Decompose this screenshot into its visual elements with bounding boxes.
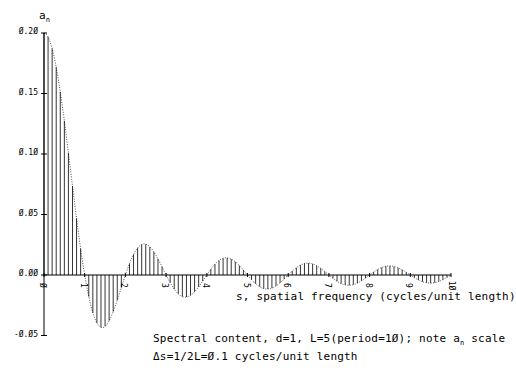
x-tick-label: Ø: [38, 283, 47, 288]
x-tick-label: 1: [79, 283, 88, 288]
y-tick-label: Ø.15: [19, 88, 38, 97]
x-tick-label: 6: [282, 283, 291, 288]
caption-line-1: Spectral content, d=1, L=5(period=1Ø); n…: [153, 332, 505, 347]
caption-line-2: Δs=1/2L=Ø.1 cycles/unit length: [153, 350, 358, 363]
x-tick-label: 2: [119, 283, 128, 288]
y-axis-label: an: [39, 9, 50, 24]
x-axis-label: s, spatial frequency (cycles/unit length…: [236, 290, 516, 303]
x-tick-label: 4: [201, 283, 210, 288]
x-tick-label: 7: [323, 283, 332, 288]
y-tick-label: Ø.Ø5: [19, 209, 38, 218]
x-tick-label: 1Ø: [447, 281, 456, 291]
y-tick-label: Ø.ØØ: [19, 269, 38, 278]
y-tick-label: Ø.1Ø: [19, 148, 38, 157]
x-tick-label: 8: [364, 283, 373, 288]
y-tick-label: -Ø.Ø5: [14, 330, 38, 339]
x-tick-label: 3: [160, 283, 169, 288]
x-tick-label: 9: [404, 283, 413, 288]
y-tick-label: Ø.2Ø: [19, 27, 38, 36]
x-tick-label: 5: [241, 283, 250, 288]
